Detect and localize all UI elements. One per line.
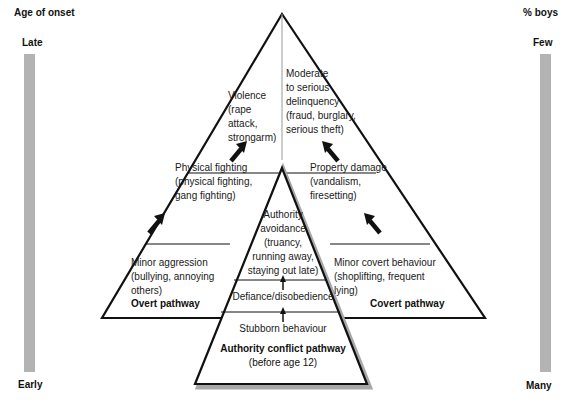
age-of-onset-title: Age of onset <box>14 7 75 18</box>
authority-stage-stubborn-label: Stubborn behaviour <box>213 322 353 336</box>
overt-pathway-label: Overt pathway <box>131 297 200 311</box>
svg-text:to serious: to serious <box>286 82 329 93</box>
svg-text:(fraud, burglary,: (fraud, burglary, <box>286 110 356 121</box>
svg-text:delinquency: delinquency <box>286 96 339 107</box>
percent-boys-title: % boys <box>523 7 558 18</box>
boys-few-label: Few <box>533 37 553 48</box>
percent-boys-bar <box>540 54 551 372</box>
svg-text:serious theft): serious theft) <box>286 124 344 135</box>
overt-stage-physical-fighting-label: Physical fighting (physical fighting, ga… <box>175 161 252 203</box>
svg-text:(rape: (rape <box>228 104 252 115</box>
age-of-onset-bar <box>24 54 35 372</box>
overt-stage-minor-aggression-label: Minor aggression (bullying, annoying oth… <box>131 256 214 298</box>
authority-stage-avoidance-label: Authority avoidance (truancy, running aw… <box>223 208 343 278</box>
covert-stage-property-damage-label: Property damage (vandalism, firesetting) <box>310 161 387 203</box>
svg-text:Violence: Violence <box>228 90 267 101</box>
boys-many-label: Many <box>526 380 552 391</box>
age-early-label: Early <box>18 379 43 390</box>
svg-text:Moderate: Moderate <box>286 68 329 79</box>
authority-stage-defiance-label: Defiance/disobedience <box>213 290 353 304</box>
authority-conflict-pathway-label: Authority conflict pathway (before age 1… <box>203 342 363 370</box>
age-late-label: Late <box>22 37 43 48</box>
svg-text:strongarm): strongarm) <box>228 132 276 143</box>
svg-text:attack,: attack, <box>228 118 257 129</box>
covert-pathway-label: Covert pathway <box>370 297 444 311</box>
